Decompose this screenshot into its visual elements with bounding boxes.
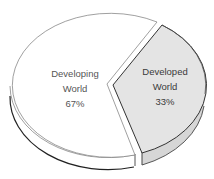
developed-label-line1: Developed — [130, 64, 200, 79]
developing-label-line2: World — [40, 81, 110, 96]
developing-world-label: Developing World 67% — [40, 66, 110, 111]
developed-world-label: Developed World 33% — [130, 64, 200, 109]
developed-label-line2: World — [130, 79, 200, 94]
developing-label-value: 67% — [40, 96, 110, 111]
developing-label-line1: Developing — [40, 66, 110, 81]
developed-label-value: 33% — [130, 94, 200, 109]
